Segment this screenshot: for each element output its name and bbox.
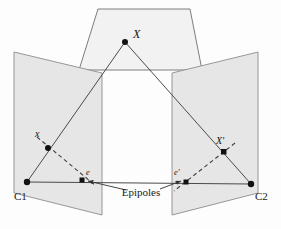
right-image-point-label: X' [215,135,225,146]
scene-plane [79,9,202,70]
scene-point-marker [122,39,128,45]
left-image-plane [14,52,102,215]
left-image-point-label: x [34,128,40,139]
left-camera-label: C1 [14,190,27,202]
left-epipole-marker [80,178,85,183]
epipoles-caption: Epipoles [122,186,161,198]
right-epipole-label: e' [174,167,180,177]
right-image-point-marker [221,149,227,155]
epipolar-geometry-figure: X x X' e e' C1 C2 Epipoles [0,0,281,229]
right-epipole-marker [184,180,189,185]
left-camera-center-marker [24,179,30,185]
right-image-plane [172,52,258,215]
left-epipole-label: e [86,167,90,177]
right-camera-center-marker [248,181,254,187]
left-image-point-marker [45,145,51,151]
scene-point-label: X [132,27,141,41]
right-camera-label: C2 [255,190,268,202]
epipolar-geometry-canvas: X x X' e e' C1 C2 Epipoles [0,0,281,229]
